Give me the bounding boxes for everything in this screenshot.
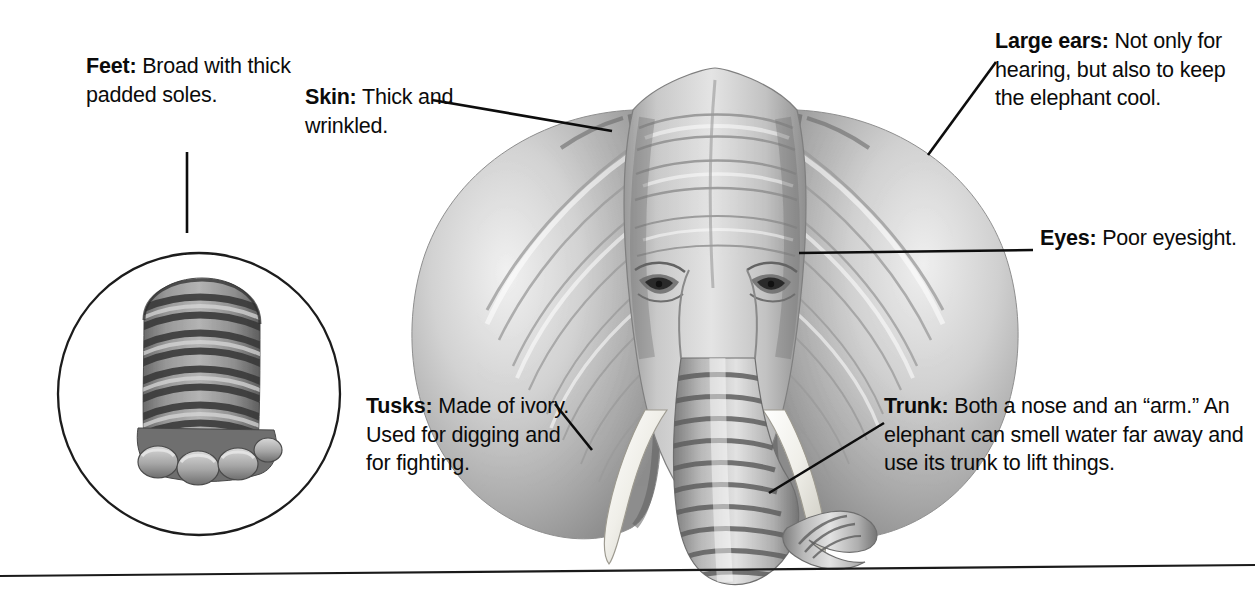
callout-large-ears: Large ears: Not only for hearing, but al… [995, 27, 1245, 113]
callout-eyes-term: Eyes: [1040, 226, 1096, 250]
callout-feet-term: Feet: [86, 54, 136, 78]
callout-skin-term: Skin: [305, 85, 357, 109]
diagram-canvas: Feet: Broad with thick padded soles. Ski… [0, 0, 1255, 596]
callout-tusks: Tusks: Made of ivory. Used for digging a… [366, 392, 581, 478]
callout-skin: Skin: Thick and wrinkled. [305, 83, 520, 140]
callout-large-ears-term: Large ears: [995, 29, 1109, 53]
callout-trunk: Trunk: Both a nose and an “arm.” An elep… [884, 392, 1244, 478]
foot-inset-circle [58, 253, 340, 535]
callout-tusks-term: Tusks: [366, 394, 433, 418]
leader-line-eyes [799, 250, 1033, 253]
leader-line-large-ears [928, 62, 996, 155]
callout-eyes-body: Poor eyesight. [1096, 226, 1236, 250]
callout-trunk-term: Trunk: [884, 394, 949, 418]
callout-feet: Feet: Broad with thick padded soles. [86, 52, 296, 109]
leader-line-trunk [769, 423, 884, 493]
callout-eyes: Eyes: Poor eyesight. [1040, 224, 1250, 253]
bottom-rule [0, 565, 1255, 576]
